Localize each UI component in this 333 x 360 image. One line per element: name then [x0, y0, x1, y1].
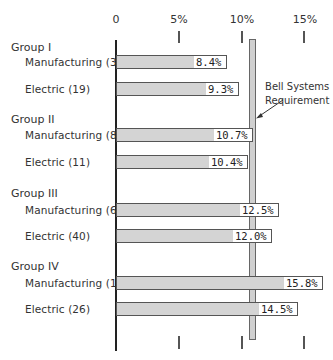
- value-label: 12.0%: [233, 229, 272, 243]
- x-tick-bottom-10: [241, 336, 243, 349]
- x-tick-label-0: 0: [113, 13, 120, 26]
- annotation-arrow-icon: [250, 96, 290, 122]
- category-label: Manufacturing (8): [25, 129, 121, 141]
- value-label: 10.4%: [209, 155, 248, 169]
- category-label: Electric (11): [25, 156, 90, 168]
- category-label: Electric (26): [25, 303, 90, 315]
- category-label: Electric (19): [25, 83, 90, 95]
- value-label: 10.7%: [214, 128, 253, 142]
- bell-systems-requirement-bar: [249, 39, 256, 340]
- x-tick-top-15: [303, 31, 305, 43]
- value-label: 9.3%: [206, 82, 239, 96]
- x-tick-label-5: 5%: [170, 13, 187, 26]
- x-tick-top-5: [178, 31, 180, 43]
- x-tick-bottom-15: [303, 336, 305, 349]
- x-tick-label-15: 15%: [293, 13, 317, 26]
- annotation-line-1: Bell Systems: [265, 80, 329, 94]
- value-label: 8.4%: [194, 55, 227, 69]
- category-label: Manufacturing (62): [25, 204, 128, 216]
- value-label: 12.5%: [240, 203, 279, 217]
- group-label: Group I: [11, 41, 51, 54]
- value-label: 15.8%: [284, 276, 323, 290]
- x-tick-label-10: 10%: [230, 13, 254, 26]
- group-label: Group III: [11, 187, 58, 200]
- value-label: 14.5%: [259, 302, 298, 316]
- x-tick-top-10: [241, 31, 243, 43]
- category-label: Electric (40): [25, 230, 90, 242]
- group-label: Group IV: [11, 260, 59, 273]
- x-tick-bottom-5: [178, 336, 180, 349]
- group-label: Group II: [11, 113, 54, 126]
- category-label: Manufacturing (33): [25, 56, 128, 68]
